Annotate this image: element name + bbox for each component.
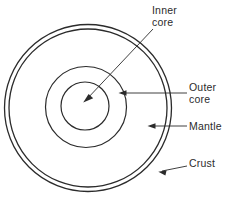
mantle-label: Mantle — [189, 120, 222, 132]
crust-inner-circle — [9, 29, 167, 187]
outer-core-boundary-circle — [46, 67, 127, 148]
inner-core-arrowhead — [83, 94, 93, 103]
crust-label: Crust — [189, 157, 215, 169]
crust-leader-line — [162, 166, 187, 171]
inner-core-leader-line — [86, 29, 153, 100]
crust-arrowhead — [158, 170, 166, 175]
earth-cross-section-diagram: Inner core Outer core Mantle Crust — [0, 0, 238, 203]
inner-core-label: Inner core — [152, 4, 177, 28]
inner-core-circle — [61, 82, 109, 130]
outer-core-arrowhead — [119, 90, 127, 96]
outer-core-label: Outer core — [189, 81, 216, 105]
mantle-arrowhead — [148, 123, 156, 129]
crust-outer-circle — [5, 25, 172, 192]
